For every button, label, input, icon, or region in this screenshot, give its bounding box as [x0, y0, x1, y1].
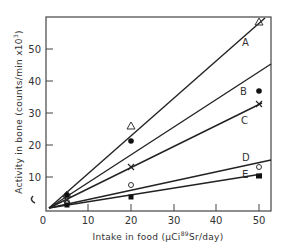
x-tick-label: 20	[125, 215, 138, 226]
series-label-d: D	[242, 152, 250, 163]
y-tick-label: 20	[28, 140, 41, 151]
line-a	[49, 18, 265, 208]
series-label-a: A	[242, 37, 249, 48]
x-axis: 0 10 20 30 40 50	[40, 204, 266, 226]
y-tick-label: 30	[28, 108, 41, 119]
fit-lines	[49, 18, 271, 208]
x-tick-label: 10	[82, 215, 95, 226]
line-d	[49, 160, 271, 208]
line-b	[49, 64, 271, 208]
axis-break-mark	[31, 196, 35, 203]
y-axis: 10 20 30 40 50	[28, 44, 53, 183]
x-tick-label: 30	[168, 215, 181, 226]
series-b-markers	[64, 88, 262, 198]
series-label-e: E	[242, 169, 248, 180]
x-tick-label: 40	[210, 215, 223, 226]
y-tick-label: 10	[28, 172, 41, 183]
x-tick-label: 50	[253, 215, 266, 226]
y-tick-label: 40	[28, 76, 41, 87]
y-axis-title: Activity in bone (counts/min x103)	[12, 30, 24, 194]
series-label-c: C	[241, 115, 248, 126]
series-label-b: B	[240, 86, 247, 97]
x-axis-title: Intake in food (µCi89Sr/day)	[92, 230, 223, 242]
y-tick-label: 50	[28, 44, 41, 55]
chart: 10 20 30 40 50 0 10 20 30 40 50 Intake i…	[0, 0, 286, 247]
x-tick-label: 0	[40, 215, 46, 226]
plot-frame	[46, 17, 271, 211]
line-c	[49, 103, 262, 208]
